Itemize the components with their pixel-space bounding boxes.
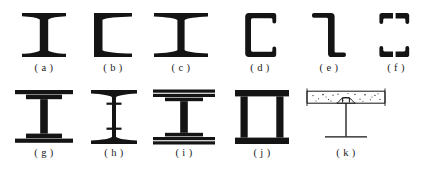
channel-tapered-flange-icon (88, 10, 138, 60)
rolled-i-beam-tapered-flange-icon (14, 10, 74, 60)
figure-caption-f: ( f ) (372, 62, 420, 74)
i-beam-with-cover-plates-icon (14, 88, 74, 146)
figure-caption-i: ( i ) (152, 147, 216, 159)
figure-item-e: ( e ) (305, 10, 353, 74)
figure-item-d: ( d ) (238, 10, 282, 74)
figure-item-f: ( f ) (372, 10, 420, 74)
figure-item-k: ( k ) (302, 88, 390, 158)
figure-item-c: ( c ) (150, 10, 212, 74)
z-section-purlin-icon (305, 10, 353, 60)
figure-caption-j: ( j ) (232, 147, 292, 159)
riveted-i-beam-with-stiffeners-icon (86, 88, 142, 146)
figure-caption-a: ( a ) (14, 62, 74, 74)
figure-caption-h: ( h ) (86, 147, 142, 159)
beam-cross-section-figure: ( a ) ( b ) ( c ) ( d ) ( e ) (0, 0, 433, 176)
wide-flange-i-beam-icon (150, 10, 212, 60)
composite-beam-with-concrete-slab-icon (302, 88, 390, 146)
figure-item-g: ( g ) (14, 88, 74, 158)
double-channel-back-to-back-icon (372, 10, 420, 60)
figure-caption-k: ( k ) (302, 147, 390, 159)
figure-caption-d: ( d ) (238, 62, 282, 74)
figure-item-h: ( h ) (86, 88, 142, 158)
figure-item-j: ( j ) (232, 88, 292, 158)
built-up-box-section-icon (232, 88, 292, 146)
figure-caption-c: ( c ) (150, 62, 212, 74)
figure-caption-b: ( b ) (88, 62, 138, 74)
c-channel-parallel-flange-icon (238, 10, 282, 60)
figure-item-b: ( b ) (88, 10, 138, 74)
figure-caption-g: ( g ) (14, 147, 74, 159)
i-beam-with-double-cover-plates-icon (152, 88, 216, 146)
figure-caption-e: ( e ) (305, 62, 353, 74)
figure-item-i: ( i ) (152, 88, 216, 158)
figure-item-a: ( a ) (14, 10, 74, 74)
